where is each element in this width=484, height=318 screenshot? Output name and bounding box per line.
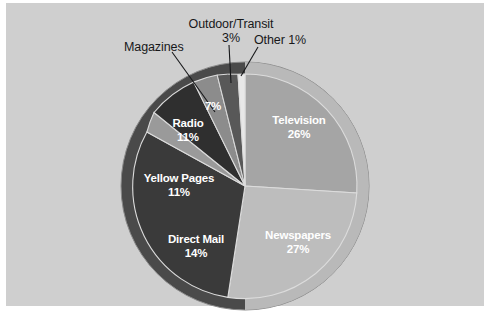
slice-label-direct-mail-name: Direct Mail: [168, 233, 224, 245]
pie-chart-figure: Magazines Outdoor/Transit 3% Other 1% Te…: [0, 0, 484, 318]
slice-label-radio: Radio 11%: [160, 117, 216, 145]
slice-label-direct-mail-pct: 14%: [153, 247, 239, 261]
slice-label-radio-pct: 11%: [160, 131, 216, 145]
slice-label-yellow-pages-name: Yellow Pages: [144, 172, 214, 184]
slice-label-magazines-pct: 7%: [196, 100, 230, 114]
slice-label-direct-mail: Direct Mail 14%: [153, 233, 239, 261]
pie-chart-graphic: [0, 0, 484, 318]
slice-label-newspapers: Newspapers 27%: [252, 229, 344, 257]
slice-label-yellow-pages: Yellow Pages 11%: [126, 172, 232, 200]
callout-label-magazines: Magazines: [124, 40, 184, 54]
callout-label-other: Other 1%: [254, 33, 306, 47]
slice-label-newspapers-name: Newspapers: [265, 229, 331, 241]
slice-label-radio-name: Radio: [173, 117, 204, 129]
callout-outdoor-transit-name: Outdoor/Transit: [176, 17, 286, 31]
slice-label-newspapers-pct: 27%: [252, 243, 344, 257]
slice-label-television-pct: 26%: [256, 128, 342, 142]
slice-label-television-name: Television: [272, 114, 325, 126]
slice-label-television: Television 26%: [256, 114, 342, 142]
slice-label-yellow-pages-pct: 11%: [126, 186, 232, 200]
